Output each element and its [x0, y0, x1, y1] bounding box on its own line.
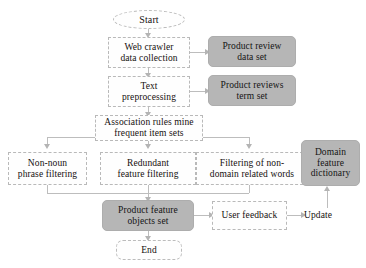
node-product-reviews-term-set[interactable]: Product reviews term set — [208, 75, 296, 106]
node-product-review-data-set[interactable]: Product review data set — [208, 36, 296, 67]
connector-merge-right-riser — [249, 185, 250, 193]
node-non-noun-phrase-filtering[interactable]: Non-noun phrase filtering — [8, 152, 87, 185]
node-start[interactable]: Start — [113, 10, 185, 29]
connector-merge-left-riser — [47, 185, 48, 193]
node-product-feature-objects-set[interactable]: Product feature objects set — [102, 200, 194, 231]
node-text-preprocessing[interactable]: Text preprocessing — [108, 76, 190, 107]
arrowhead-branch-mid — [145, 144, 151, 149]
node-update[interactable]: Update — [304, 207, 360, 224]
node-web-crawler-data-collection[interactable]: Web crawler data collection — [108, 37, 190, 68]
arrowhead-branch-left — [44, 144, 50, 149]
connector-merge-mid-riser — [148, 185, 149, 193]
node-filtering-non-domain-words[interactable]: Filtering of non- domain related words — [196, 152, 308, 185]
arrowhead-update-to-dictionary — [324, 186, 330, 191]
flowchart-canvas: Start Web crawler data collection Produc… — [0, 0, 366, 268]
node-redundant-feature-filtering[interactable]: Redundant feature filtering — [100, 152, 196, 185]
connector-update-to-dictionary — [327, 190, 328, 208]
node-user-feedback[interactable]: User feedback — [212, 201, 287, 230]
node-domain-feature-dictionary[interactable]: Domain feature dictionary — [301, 140, 360, 186]
node-end[interactable]: End — [116, 240, 182, 260]
node-association-rules-mine[interactable]: Association rules mine frequent item set… — [95, 115, 203, 141]
arrowhead-branch-right — [246, 144, 252, 149]
